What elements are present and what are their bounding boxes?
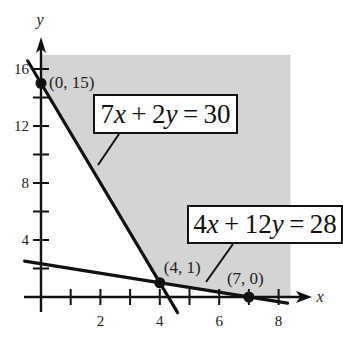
y-tick-label: 16 [14, 61, 30, 77]
vertex-point [243, 292, 254, 303]
equation-variable: y [166, 99, 178, 130]
equation-text: = 28 [284, 209, 337, 240]
vertex-label: (0, 15) [49, 73, 94, 92]
x-tick-label: 2 [97, 313, 105, 329]
equation-label-line-2: 4x + 12y = 28 [187, 205, 343, 244]
vertex-point [154, 277, 165, 288]
equation-text: 4 [193, 209, 207, 240]
y-tick-label: 8 [22, 175, 30, 191]
y-tick-label: 12 [14, 118, 29, 134]
vertex-point [36, 78, 47, 89]
equation-variable: y [272, 209, 284, 240]
equation-text: + 12 [219, 209, 272, 240]
equation-text: + 2 [126, 99, 166, 130]
equation-variable: x [114, 99, 126, 130]
y-axis-label: y [34, 11, 44, 29]
equation-variable: x [207, 209, 219, 240]
equation-text: 7 [100, 99, 114, 130]
graph: 2468481216xy (0, 15)(4, 1)(7, 0) [0, 0, 343, 338]
x-tick-label: 8 [275, 313, 283, 329]
equation-text: = 30 [177, 99, 230, 130]
vertex-label: (4, 1) [164, 258, 201, 277]
equation-label-line-1: 7x + 2y = 30 [93, 94, 238, 134]
x-axis-label: x [315, 288, 323, 305]
x-tick-label: 6 [215, 313, 223, 329]
y-tick-label: 4 [22, 232, 30, 248]
vertex-label: (7, 0) [227, 269, 264, 288]
x-tick-label: 4 [156, 313, 164, 329]
